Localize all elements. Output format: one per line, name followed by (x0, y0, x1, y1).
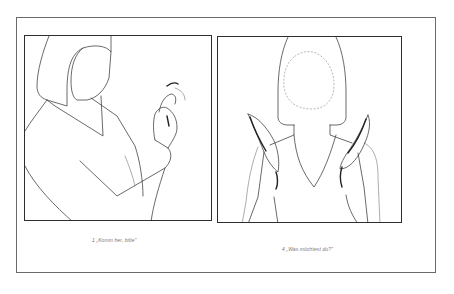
figure-4-panel (217, 36, 402, 223)
figure-1-illustration (25, 36, 212, 221)
figure-1-caption: 1 „Komm her, bitte" (92, 237, 137, 243)
figure-1-panel (24, 35, 212, 221)
figure-4-caption: 4 „Was möchtest du?" (282, 246, 333, 252)
figure-4-illustration (218, 37, 402, 223)
